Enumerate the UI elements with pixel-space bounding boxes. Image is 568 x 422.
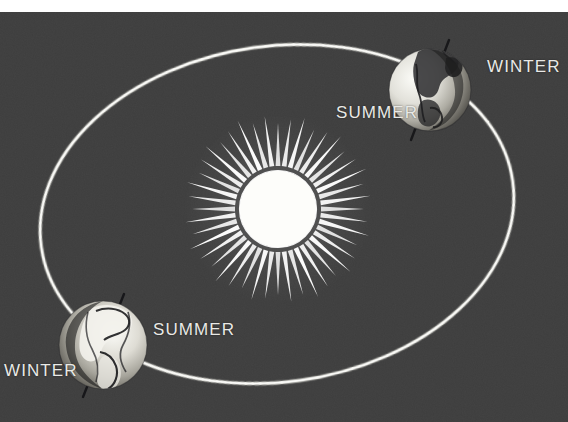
label-summer-southern: SUMMER [336,103,418,123]
sun [183,114,373,304]
label-summer-northern: SUMMER [153,320,235,340]
diagram-svg [0,12,568,422]
top-white-margin [0,0,568,12]
label-winter-southern: WINTER [4,361,78,381]
label-winter-northern: WINTER [487,57,561,77]
diagram-stage: WINTER SUMMER SUMMER WINTER [0,0,568,422]
diagram-canvas: WINTER SUMMER SUMMER WINTER [0,12,568,422]
